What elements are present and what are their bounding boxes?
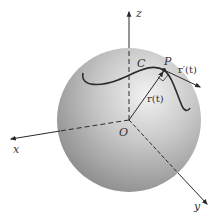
point-label: P bbox=[163, 55, 172, 68]
z-axis-label: z bbox=[135, 7, 142, 20]
origin-label: O bbox=[119, 126, 128, 139]
tangent-vector-label: r′(t) bbox=[178, 64, 197, 75]
x-axis-label: x bbox=[13, 143, 20, 156]
y-axis-label: y bbox=[193, 200, 201, 213]
x-axis-outside bbox=[11, 131, 60, 139]
y-axis-outside bbox=[178, 173, 207, 204]
curve-label: C bbox=[137, 57, 146, 70]
position-vector-label: r(t) bbox=[147, 93, 164, 104]
sphere-diagram: z x y O C P r(t) r′(t) bbox=[0, 0, 214, 220]
